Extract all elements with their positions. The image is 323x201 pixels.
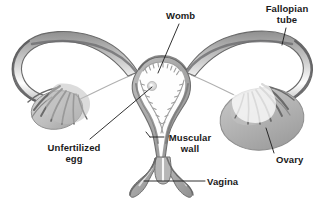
label-muscular-wall: Muscular wall (166, 132, 214, 154)
label-womb-line-1: Womb (166, 10, 195, 21)
label-muscular-wall-line-1: Muscular (166, 132, 214, 143)
reproductive-system-diagram (0, 0, 323, 201)
label-ovary: Ovary (276, 154, 303, 165)
label-vagina-line-1: Vagina (207, 176, 238, 187)
label-muscular-wall-line-2: wall (166, 143, 214, 154)
label-fallopian-tube: Fallopian tube (262, 3, 312, 25)
cervix-and-vagina (130, 157, 193, 197)
label-unfertilized-egg-line-2: egg (44, 153, 104, 164)
label-womb: Womb (166, 10, 195, 21)
label-ovary-line-1: Ovary (276, 154, 303, 165)
leader-muscular-wall-tick (146, 132, 150, 137)
label-vagina: Vagina (207, 176, 238, 187)
label-fallopian-tube-line-2: tube (262, 14, 312, 25)
label-unfertilized-egg-line-1: Unfertilized (44, 142, 104, 153)
right-infundibulum (232, 82, 276, 123)
left-infundibulum (46, 84, 90, 124)
label-fallopian-tube-line-1: Fallopian (262, 3, 312, 14)
label-unfertilized-egg: Unfertilized egg (44, 142, 104, 164)
